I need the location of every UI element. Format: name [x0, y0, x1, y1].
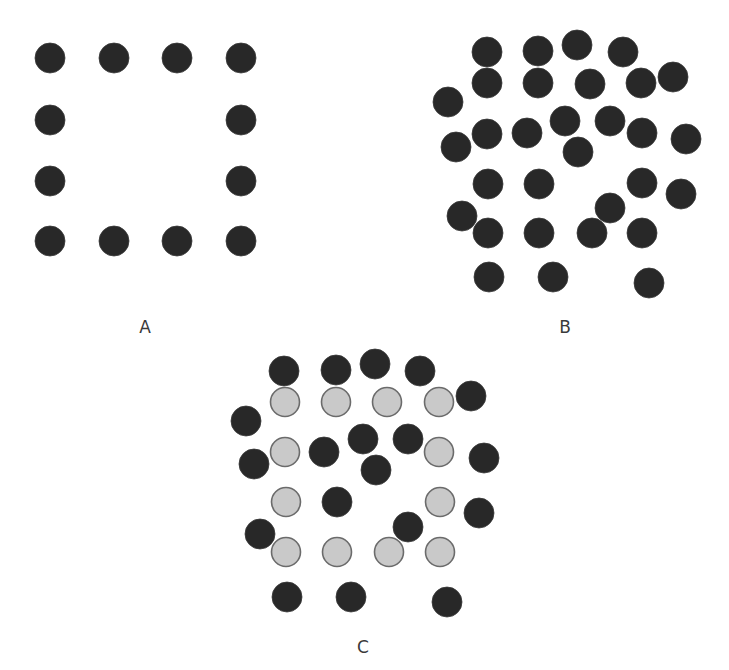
panel-a-label: A: [139, 319, 151, 336]
dark-dot: [538, 262, 568, 292]
dark-dot: [433, 87, 463, 117]
dark-dot: [524, 169, 554, 199]
dark-dot: [393, 424, 423, 454]
dark-dot: [473, 169, 503, 199]
dark-dot: [35, 105, 65, 135]
dark-dot: [523, 68, 553, 98]
light-dot: [271, 388, 300, 417]
dark-dot: [35, 43, 65, 73]
dark-dot: [245, 519, 275, 549]
dark-dot: [348, 424, 378, 454]
dark-dot: [447, 201, 477, 231]
dark-dot: [239, 449, 269, 479]
dark-dot: [432, 587, 462, 617]
light-dot: [375, 538, 404, 567]
dark-dot: [658, 62, 688, 92]
dark-dot: [35, 166, 65, 196]
dark-dot: [473, 218, 503, 248]
light-dot: [426, 488, 455, 517]
dark-dot: [474, 262, 504, 292]
dark-dot: [671, 124, 701, 154]
panel-b-label: B: [559, 319, 571, 336]
dark-dot: [162, 226, 192, 256]
gestalt-figure: [0, 0, 729, 670]
dark-dot: [226, 43, 256, 73]
dark-dot: [666, 179, 696, 209]
dark-dot: [226, 105, 256, 135]
light-dot: [426, 538, 455, 567]
dark-dot: [361, 455, 391, 485]
dark-dot: [360, 349, 390, 379]
dark-dot: [231, 406, 261, 436]
panel-c-label: C: [357, 639, 369, 656]
dark-dot: [405, 356, 435, 386]
dark-dot: [226, 226, 256, 256]
light-dot: [272, 538, 301, 567]
panel-a-square-outline: [35, 43, 256, 256]
dark-dot: [634, 268, 664, 298]
light-dot: [373, 388, 402, 417]
dark-dot: [336, 582, 366, 612]
dark-dot: [595, 193, 625, 223]
dark-dot: [512, 118, 542, 148]
dark-dot: [550, 106, 580, 136]
dark-dot: [322, 487, 352, 517]
dark-dot: [627, 168, 657, 198]
dark-dot: [595, 106, 625, 136]
dark-dot: [309, 437, 339, 467]
dark-dot: [577, 218, 607, 248]
light-dot: [323, 538, 352, 567]
dark-dot: [608, 37, 638, 67]
dark-dot: [99, 226, 129, 256]
dark-dot: [226, 166, 256, 196]
dark-dot: [456, 381, 486, 411]
dark-dot: [472, 119, 502, 149]
dark-dot: [99, 43, 129, 73]
light-dot: [322, 388, 351, 417]
light-dot: [425, 438, 454, 467]
dark-dot: [35, 226, 65, 256]
dark-dot: [562, 30, 592, 60]
light-dot: [271, 438, 300, 467]
dark-dot: [464, 498, 494, 528]
dark-dot: [472, 37, 502, 67]
panel-c-embedded-square: [231, 349, 499, 617]
dark-dot: [393, 512, 423, 542]
dark-dot: [523, 36, 553, 66]
dark-dot: [269, 356, 299, 386]
dark-dot: [563, 137, 593, 167]
dark-dot: [469, 443, 499, 473]
light-dot: [425, 388, 454, 417]
dark-dot: [627, 218, 657, 248]
dark-dot: [441, 132, 471, 162]
dark-dot: [162, 43, 192, 73]
panel-b-random-dots: [433, 30, 701, 298]
dark-dot: [524, 218, 554, 248]
dark-dot: [575, 69, 605, 99]
dark-dot: [321, 355, 351, 385]
dark-dot: [627, 118, 657, 148]
dark-dot: [272, 582, 302, 612]
light-dot: [272, 488, 301, 517]
dark-dot: [472, 68, 502, 98]
dark-dot: [626, 68, 656, 98]
